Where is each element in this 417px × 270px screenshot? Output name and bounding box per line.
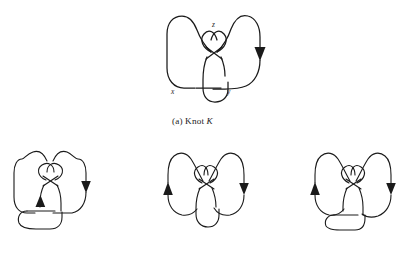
- lz-bow-right: [351, 166, 364, 183]
- ly-outer-left-lower: [168, 195, 197, 215]
- lz-bottom-loop: [325, 215, 365, 230]
- panel-link-lz: (d) Link: Lz: [278, 145, 417, 230]
- lz-outer-left-upper: [315, 153, 350, 183]
- ly-arrow-left-up: [163, 182, 173, 195]
- caption-knot-k: (a) Knot K: [172, 116, 213, 126]
- panel-link-ly: (c) Link: Ly: [139, 145, 278, 230]
- lz-tongue-left: [343, 188, 347, 211]
- ly-arrow-right-down: [239, 183, 249, 195]
- figure-root: z x y (a) Knot K: [0, 0, 417, 270]
- link-lz-svg: [308, 145, 398, 230]
- knot-strand-tongue-left: [203, 57, 228, 102]
- panel-knot-k: z x y (a) Knot K: [0, 0, 417, 132]
- knot-label-x: x: [170, 87, 175, 96]
- lz-arrow-left-up: [310, 182, 320, 195]
- caption-a-symbol: K: [207, 116, 213, 126]
- lx-arrow-right: [81, 181, 91, 193]
- link-lx-svg: [8, 145, 98, 230]
- knot-strand-left-outer: [167, 16, 211, 88]
- lx-arrow-up: [36, 195, 46, 207]
- knot-k-svg: z x y: [155, 2, 275, 108]
- knot-direction-arrow: [255, 47, 266, 61]
- link-ly-diagram: [161, 145, 251, 230]
- lz-outer-left-lower: [315, 195, 344, 215]
- lz-outer-right-lower: [362, 195, 391, 217]
- ly-tongue-left: [196, 188, 219, 227]
- lx-outer-right-lower: [53, 192, 86, 213]
- caption-a-prefix: (a): [172, 116, 183, 126]
- link-ly-svg: [161, 145, 251, 230]
- panel-link-lx: (b) Link: Lx: [0, 145, 139, 230]
- lz-arrow-right-down: [386, 183, 396, 195]
- ly-outer-left-upper: [168, 153, 203, 183]
- lx-bottom-loop: [18, 211, 62, 229]
- knot-k-diagram: z x y: [155, 2, 275, 108]
- ly-tongue-right: [212, 188, 216, 207]
- ly-bow-right: [204, 166, 217, 183]
- knot-label-y: y: [226, 87, 231, 96]
- link-lx-diagram: [8, 145, 98, 230]
- lz-tongue-right: [359, 188, 363, 215]
- knot-strand-right-lower: [213, 60, 260, 89]
- knot-label-z: z: [211, 20, 215, 29]
- knot-strand-tongue-right: [221, 57, 225, 76]
- caption-a-text: Knot: [185, 116, 204, 126]
- link-lz-diagram: [308, 145, 398, 230]
- lx-tongue-right: [57, 185, 61, 211]
